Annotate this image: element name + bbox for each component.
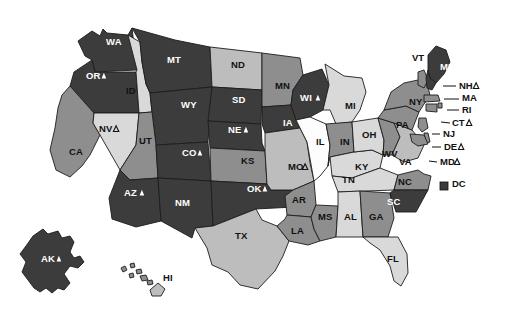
callout-vt: VT — [412, 52, 424, 63]
state-label-ar: AR — [292, 194, 306, 205]
state-code-text: IL — [316, 136, 325, 147]
state-label-ia: IA — [283, 117, 293, 128]
state-code-text: ID — [126, 85, 136, 96]
state-code-text: PA — [396, 119, 409, 130]
callout-code-text: VT — [412, 52, 424, 63]
state-label-in: IN — [340, 136, 350, 147]
hawaii-islet-3 — [129, 273, 134, 278]
state-label-wv: WV — [382, 148, 398, 159]
state-ma[interactable] — [424, 95, 440, 102]
state-code-text: SD — [232, 94, 246, 105]
state-sd[interactable] — [208, 87, 262, 124]
open-triangle-icon — [473, 83, 478, 89]
dc-legend-group: DC — [440, 178, 466, 190]
hawaii-islet-0 — [121, 266, 127, 272]
state-code-text: MN — [275, 80, 290, 91]
state-label-mi: MI — [345, 100, 356, 111]
state-code-text: TN — [342, 174, 355, 185]
state-ri[interactable] — [438, 103, 442, 108]
open-triangle-icon — [454, 159, 459, 165]
filled-square-icon — [440, 182, 448, 190]
state-label-oh: OH — [362, 129, 377, 140]
state-code-text: AK — [41, 253, 55, 264]
state-code-text: MI — [345, 100, 356, 111]
state-code-text: LA — [291, 225, 304, 236]
state-code-text: UT — [139, 135, 152, 146]
state-code-text: VA — [399, 156, 412, 167]
state-code-text: KS — [241, 155, 255, 166]
state-code-text: AL — [344, 211, 357, 222]
state-label-nd: ND — [231, 59, 245, 70]
hawaii-islet-2 — [136, 269, 142, 274]
state-wy[interactable] — [150, 87, 212, 145]
legend-dc-label: DC — [452, 178, 466, 189]
state-code-text: GA — [369, 211, 384, 222]
state-code-text: WA — [106, 36, 122, 47]
state-code-text: CA — [69, 146, 83, 157]
callout-code-text: NH — [459, 80, 473, 91]
callout-nh: NH — [443, 80, 479, 91]
leader-line — [429, 161, 437, 162]
state-code-text: NC — [398, 176, 412, 187]
state-label-al: AL — [344, 211, 357, 222]
state-code-text: NV — [99, 123, 113, 134]
state-label-va: VA — [399, 156, 412, 167]
hawaii-islet-4 — [140, 275, 148, 281]
state-label-tn: TN — [342, 174, 355, 185]
callout-ma: MA — [444, 92, 477, 103]
state-code-text: MO — [288, 161, 304, 172]
callout-code-text: CT — [452, 117, 465, 128]
state-label-wy: WY — [181, 99, 197, 110]
state-code-text: MS — [318, 211, 333, 222]
state-code-text: KY — [355, 161, 369, 172]
state-code-text: AZ — [124, 187, 137, 198]
state-label-ga: GA — [369, 211, 384, 222]
state-code-text: OK — [247, 183, 262, 194]
callout-de: DE — [432, 141, 464, 152]
state-code-text: SC — [387, 196, 401, 207]
hawaii-islet-5 — [147, 280, 153, 285]
state-label-tx: TX — [235, 230, 248, 241]
leader-line — [441, 122, 450, 123]
state-label-ny: NY — [409, 96, 423, 107]
us-map-svg: AKHIWAORCANVIDMTWYUTAZCONMNDSDNEKSOKTXMN… — [0, 0, 508, 323]
state-code-text: WV — [382, 148, 398, 159]
state-code-text: WI — [300, 92, 312, 103]
state-label-ks: KS — [241, 155, 255, 166]
state-label-ut: UT — [139, 135, 152, 146]
state-code-text: OR — [86, 70, 101, 81]
state-code-text: OH — [362, 129, 377, 140]
state-code-text: NE — [228, 124, 242, 135]
state-code-text: IN — [340, 136, 350, 147]
state-code-text: ME — [440, 61, 455, 72]
state-code-text: FL — [387, 253, 399, 264]
state-label-ms: MS — [318, 211, 333, 222]
state-mi[interactable] — [323, 64, 366, 124]
state-label-il: IL — [316, 136, 325, 147]
state-ct[interactable] — [426, 104, 437, 112]
state-code-text: IA — [283, 117, 293, 128]
state-code-text: TX — [235, 230, 248, 241]
state-code-text: AR — [292, 194, 306, 205]
state-code-text: CO — [182, 147, 197, 158]
state-label-la: LA — [291, 225, 304, 236]
state-hi[interactable] — [150, 283, 165, 296]
state-code-text: WY — [181, 99, 197, 110]
state-code-text: HI — [163, 272, 173, 283]
state-label-wa: WA — [106, 36, 122, 47]
state-label-hi: HI — [163, 272, 173, 283]
state-fl[interactable] — [363, 237, 408, 286]
state-nj[interactable] — [418, 118, 428, 132]
state-label-nm: NM — [175, 197, 190, 208]
callout-code-text: DE — [444, 141, 457, 152]
filled-triangle-icon — [456, 64, 461, 70]
state-label-ky: KY — [355, 161, 369, 172]
callout-code-text: RI — [462, 104, 472, 115]
state-label-ca: CA — [69, 146, 83, 157]
callout-nj: NJ — [432, 128, 455, 139]
state-code-text: NM — [175, 197, 190, 208]
state-label-nc: NC — [398, 176, 412, 187]
state-ks[interactable] — [210, 148, 267, 184]
state-label-mt: MT — [167, 54, 181, 65]
callout-ct: CT — [441, 117, 472, 128]
